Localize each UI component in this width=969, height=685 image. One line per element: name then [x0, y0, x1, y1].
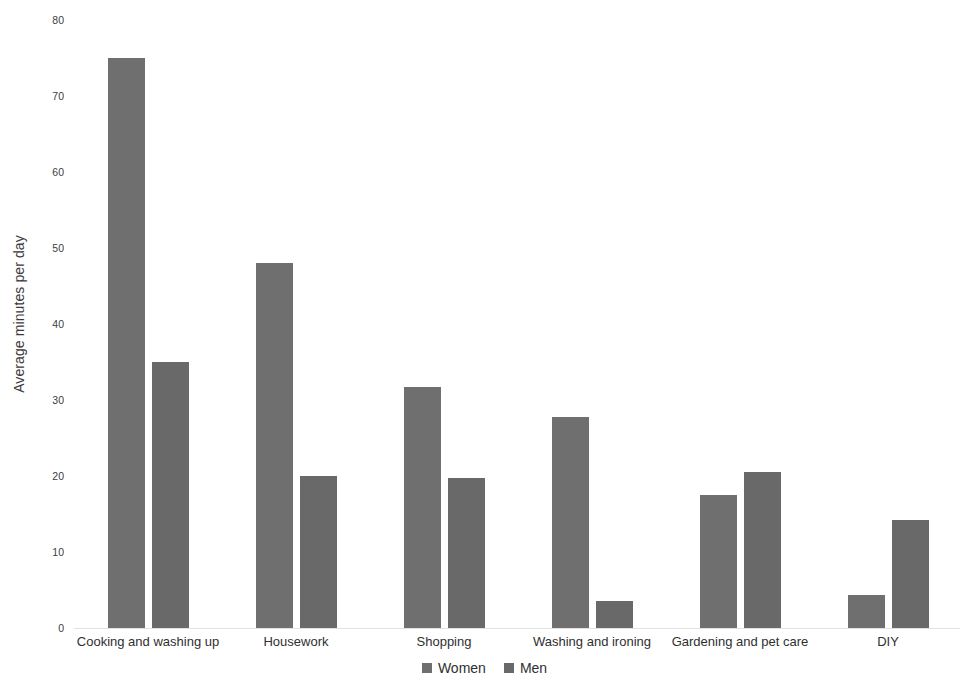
bar-men[interactable] — [596, 601, 633, 628]
legend-item[interactable]: Women — [422, 660, 486, 676]
bar-group — [814, 20, 962, 628]
x-axis-baseline — [74, 628, 960, 629]
bar-women[interactable] — [848, 595, 885, 628]
plot-area — [74, 20, 962, 628]
legend-label: Men — [520, 660, 547, 676]
bar-group-bars — [666, 20, 814, 628]
y-axis-tick-label: 20 — [52, 470, 64, 482]
y-axis-tick-label: 40 — [52, 318, 64, 330]
chart-legend: WomenMen — [0, 660, 969, 676]
bar-group — [222, 20, 370, 628]
bar-group-bars — [518, 20, 666, 628]
bar-group-bars — [74, 20, 222, 628]
y-axis-tick-labels: 01020304050607080 — [0, 0, 74, 685]
bar-women[interactable] — [256, 263, 293, 628]
bar-group — [370, 20, 518, 628]
legend-swatch-icon — [504, 663, 514, 673]
legend-item[interactable]: Men — [504, 660, 547, 676]
x-axis-category-label: Gardening and pet care — [672, 634, 809, 649]
bar-group — [666, 20, 814, 628]
x-axis-category-labels: Cooking and washing upHouseworkShoppingW… — [74, 634, 962, 656]
bar-group-bars — [814, 20, 962, 628]
bar-women[interactable] — [700, 495, 737, 628]
y-axis-tick-label: 30 — [52, 394, 64, 406]
x-axis-category-label: Housework — [263, 634, 328, 649]
bar-chart: Average minutes per day 0102030405060708… — [0, 0, 969, 685]
y-axis-tick-label: 10 — [52, 546, 64, 558]
x-axis-category-label: Shopping — [417, 634, 472, 649]
legend-label: Women — [438, 660, 486, 676]
y-axis-tick-label: 80 — [52, 14, 64, 26]
bar-men[interactable] — [152, 362, 189, 628]
bar-women[interactable] — [404, 387, 441, 628]
bar-women[interactable] — [108, 58, 145, 628]
x-axis-category-label: Washing and ironing — [533, 634, 651, 649]
bar-women[interactable] — [552, 417, 589, 628]
x-axis-category-label: Cooking and washing up — [77, 634, 219, 649]
x-axis-category-label: DIY — [877, 634, 899, 649]
y-axis-tick-label: 0 — [58, 622, 64, 634]
legend-swatch-icon — [422, 663, 432, 673]
bar-group — [518, 20, 666, 628]
bar-men[interactable] — [300, 476, 337, 628]
y-axis-tick-label: 60 — [52, 166, 64, 178]
bar-group-bars — [370, 20, 518, 628]
bar-men[interactable] — [892, 520, 929, 628]
bar-group-bars — [222, 20, 370, 628]
bar-men[interactable] — [744, 472, 781, 628]
bar-group — [74, 20, 222, 628]
bar-men[interactable] — [448, 478, 485, 628]
y-axis-tick-label: 50 — [52, 242, 64, 254]
y-axis-tick-label: 70 — [52, 90, 64, 102]
